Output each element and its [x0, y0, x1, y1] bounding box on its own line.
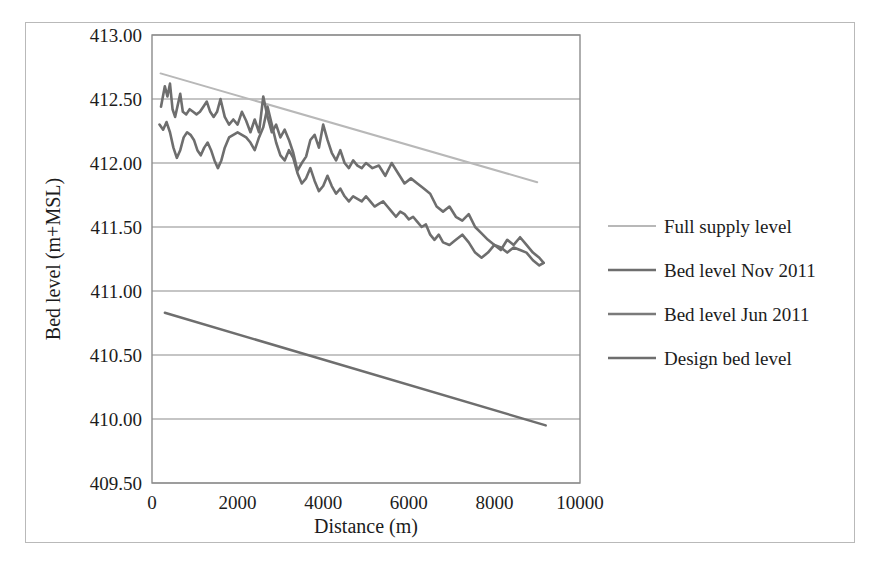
x-tick-label: 10000 [556, 492, 604, 513]
x-tick-label: 2000 [219, 492, 257, 513]
x-axis-title: Distance (m) [314, 515, 418, 538]
y-tick-label: 410.50 [90, 345, 142, 366]
figure-root: 409.50410.00410.50411.00411.50412.00412.… [0, 0, 882, 573]
y-axis-title: Bed level (m+MSL) [42, 178, 65, 340]
y-tick-label: 412.50 [90, 89, 142, 110]
y-tick-label: 411.50 [90, 217, 142, 238]
x-tick-label: 8000 [475, 492, 513, 513]
y-tick-label: 410.00 [90, 409, 142, 430]
series-group [159, 73, 545, 425]
y-tick-label: 413.00 [90, 25, 142, 46]
y-tick-label: 412.00 [90, 153, 142, 174]
x-tick-label: 0 [147, 492, 157, 513]
series-line-bed-level-nov-2011 [161, 84, 544, 263]
y-tick-label: 409.50 [90, 473, 142, 494]
y-axis-tick-labels: 409.50410.00410.50411.00411.50412.00412.… [90, 25, 142, 494]
y-tick-label: 411.00 [90, 281, 142, 302]
legend-label-2: Bed level Jun 2011 [664, 304, 809, 325]
series-line-bed-level-jun-2011 [159, 107, 543, 266]
chart-canvas: 409.50410.00410.50411.00411.50412.00412.… [0, 0, 882, 573]
x-tick-label: 4000 [304, 492, 342, 513]
legend: Full supply levelBed level Nov 2011Bed l… [608, 216, 816, 369]
legend-label-0: Full supply level [664, 216, 792, 237]
x-tick-label: 6000 [390, 492, 428, 513]
legend-label-3: Design bed level [664, 348, 792, 369]
x-axis-tick-labels: 0200040006000800010000 [147, 492, 604, 513]
series-line-design-bed-level [165, 313, 546, 426]
legend-label-1: Bed level Nov 2011 [664, 260, 816, 281]
